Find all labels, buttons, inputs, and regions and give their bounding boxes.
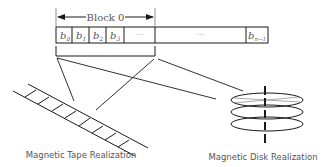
tape-label: Magnetic Tape Realization [26,150,137,160]
block-cells: b0 b1 b2 b3 ··· ··· bn−1 [60,30,266,42]
line-block-to-disk-lower [57,58,216,99]
block-array [56,27,268,43]
line-block-to-tape-right [96,59,154,110]
cell-b1: b1 [76,30,86,42]
cell-ellipsis-2: ··· [197,30,205,39]
block-bracket [56,46,155,56]
magnetic-disk-icon [231,86,303,143]
line-block-to-tape-left [57,58,74,101]
cell-ellipsis-1: ··· [136,30,144,39]
cell-b0: b0 [60,30,70,42]
mapping-lines [57,58,243,110]
block-span-indicator: Block 0 [56,8,155,26]
magnetic-tape-icon [13,84,148,156]
cell-bn-1: bn−1 [248,30,266,42]
cell-b2: b2 [93,30,103,42]
block-label: Block 0 [87,12,125,23]
line-block-to-disk-upper [158,59,243,91]
disk-label: Magnetic Disk Realization [208,152,317,162]
block-storage-diagram: Block 0 b0 b1 b2 b3 ··· ··· bn−1 [0,0,323,167]
cell-b3: b3 [110,30,120,42]
